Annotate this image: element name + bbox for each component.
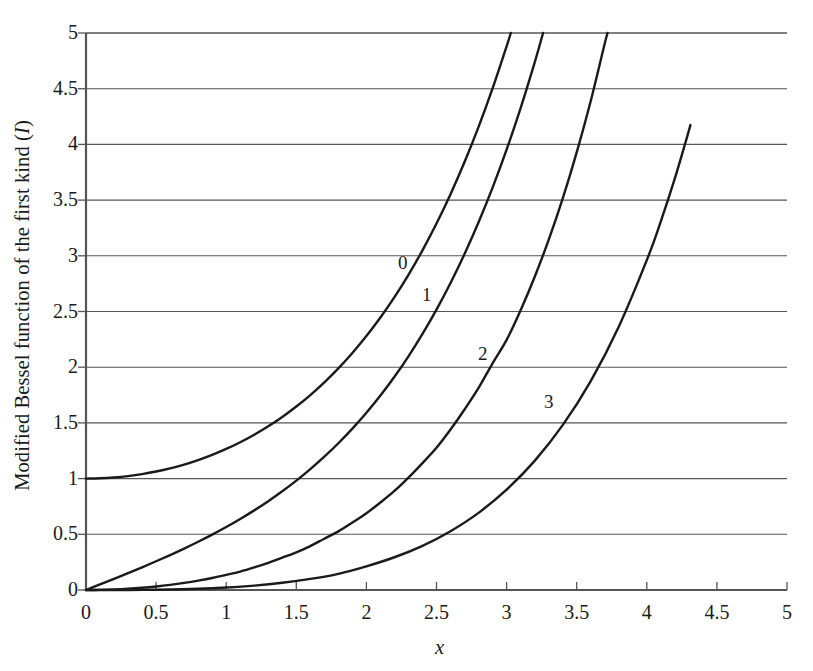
gridlines — [86, 33, 787, 534]
bessel-curve-3 — [86, 125, 690, 590]
bessel-function-chart: Modified Bessel function of the first ki… — [0, 0, 813, 671]
plot-area — [0, 0, 813, 671]
x-axis-title: x — [0, 636, 813, 659]
curve-label-0: 0 — [388, 253, 418, 272]
curve-label-1: 1 — [412, 285, 442, 304]
curve-label-2: 2 — [468, 344, 498, 363]
y-axis-tick-marks — [78, 33, 86, 590]
curve-label-3: 3 — [534, 392, 564, 411]
